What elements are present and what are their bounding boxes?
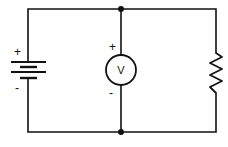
voltmeter-positive-label: +	[109, 40, 116, 54]
resistor-icon	[210, 53, 222, 93]
top-wire	[28, 9, 216, 62]
battery-icon	[11, 62, 46, 78]
circuit-diagram: + - V + -	[0, 0, 228, 147]
bottom-wire	[28, 78, 216, 132]
junction-top	[118, 6, 124, 12]
voltmeter-negative-label: -	[109, 86, 113, 100]
voltmeter-symbol: V	[117, 64, 125, 76]
junction-bottom	[118, 129, 124, 135]
battery-negative-label: -	[15, 81, 19, 95]
battery-positive-label: +	[14, 45, 21, 59]
